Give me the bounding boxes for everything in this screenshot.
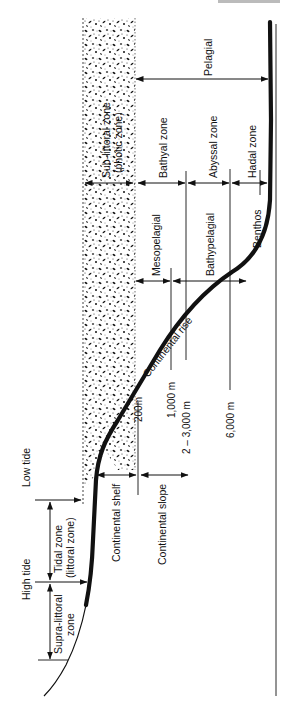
bathyal-zone-label: Bathyal zone	[157, 117, 169, 178]
depth-label-200m: 200m	[133, 397, 144, 422]
photic-zone-label: (photic zone)	[112, 112, 124, 173]
tidal-zone-label: Tidal zone	[52, 525, 64, 573]
continental-shelf-label: Continental shelf	[110, 484, 122, 562]
bathypelagial-label: Bathypelagial	[204, 213, 216, 276]
abyssal-zone-label: Abyssal zone	[207, 115, 219, 178]
continental-slope-label: Continental slope	[156, 484, 168, 565]
depth-label-6000m: 6,000 m	[225, 402, 236, 438]
low-tide-label: Low tide	[20, 448, 32, 487]
benthos-label: Benthos	[251, 209, 263, 248]
depth-label-1000m: 1,000 m	[166, 382, 177, 418]
mesopelagial-label: Mesopelagial	[150, 214, 162, 276]
pelagial-label: Pelagial	[202, 39, 214, 76]
photic-zone-stipple	[84, 18, 135, 490]
supra-littoral-zone-word: zone	[64, 613, 76, 636]
header-fragment	[218, 0, 280, 3]
high-tide-label: High tide	[20, 558, 32, 600]
marine-zonation-diagram: Pelagial Sub-littoral zone (photic zone)…	[0, 0, 293, 719]
supra-littoral-label: Supra-littoral	[52, 594, 64, 654]
depth-label-2000-3000m: 2 – 3,000 m	[181, 401, 192, 454]
littoral-zone-label: (littoral zone)	[64, 517, 76, 578]
hadal-zone-label: Hadal zone	[246, 125, 258, 178]
sub-littoral-label: Sub-littoral zone	[100, 102, 112, 178]
